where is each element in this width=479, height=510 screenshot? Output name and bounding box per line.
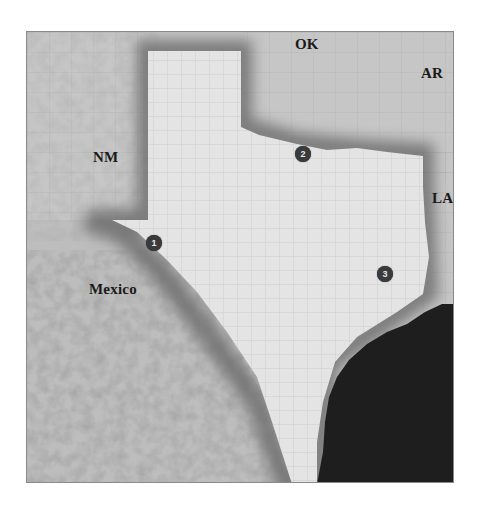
map-canvas — [27, 32, 454, 483]
marker-number: 2 — [300, 149, 305, 159]
map-marker-1[interactable]: 1 — [146, 235, 162, 251]
label-arkansas: AR — [421, 65, 443, 82]
map-frame: NM OK AR LA Mexico 1 2 3 — [26, 31, 454, 483]
label-oklahoma: OK — [295, 36, 319, 53]
label-mexico: Mexico — [89, 281, 137, 298]
marker-number: 3 — [382, 269, 387, 279]
label-new-mexico: NM — [93, 149, 118, 166]
map-marker-2[interactable]: 2 — [295, 146, 311, 162]
map-marker-3[interactable]: 3 — [377, 266, 393, 282]
marker-number: 1 — [151, 238, 156, 248]
label-louisiana: LA — [432, 190, 453, 207]
